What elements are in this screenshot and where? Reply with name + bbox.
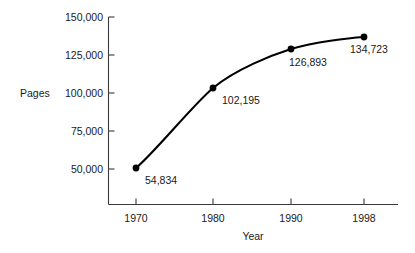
x-tick-label-1980: 1980 — [201, 212, 225, 224]
y-tick-label-100000: 100,000 — [65, 87, 103, 99]
x-axis-title: Year — [242, 230, 264, 242]
x-axis-ticks — [136, 199, 364, 205]
x-axis-tick-labels: 1970 1980 1990 1998 — [124, 212, 376, 224]
data-label-1970: 54,834 — [145, 174, 177, 186]
data-label-1998: 134,723 — [350, 43, 388, 55]
y-tick-label-50000: 50,000 — [71, 163, 103, 175]
data-label-1990: 126,893 — [289, 56, 327, 68]
x-tick-label-1998: 1998 — [352, 212, 376, 224]
line-chart: 150,000 125,000 100,000 75,000 50,000 Pa… — [0, 0, 415, 253]
data-point-1970 — [133, 165, 140, 172]
data-point-labels: 54,834 102,195 126,893 134,723 — [145, 43, 388, 186]
x-tick-label-1990: 1990 — [279, 212, 303, 224]
x-tick-label-1970: 1970 — [124, 212, 148, 224]
y-tick-label-75000: 75,000 — [71, 125, 103, 137]
y-axis-tick-labels: 150,000 125,000 100,000 75,000 50,000 — [65, 11, 103, 175]
chart-container: 150,000 125,000 100,000 75,000 50,000 Pa… — [0, 0, 415, 253]
y-tick-label-125000: 125,000 — [65, 49, 103, 61]
data-label-1980: 102,195 — [222, 94, 260, 106]
data-point-1980 — [210, 85, 217, 92]
data-point-1998 — [361, 34, 368, 41]
y-tick-label-150000: 150,000 — [65, 11, 103, 23]
data-point-1990 — [288, 46, 295, 53]
y-axis-title: Pages — [20, 87, 50, 99]
y-axis-ticks — [109, 17, 115, 169]
